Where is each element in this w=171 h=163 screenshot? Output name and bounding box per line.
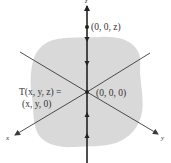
projection-diagram: z (0, 0, z) (0, 0, 0) T(x, y, z) = (x, y… (0, 0, 171, 163)
x-axis-label: x (5, 134, 10, 142)
origin-point (85, 90, 89, 94)
z-axis-label: z (84, 0, 88, 4)
origin-label: (0, 0, 0) (96, 88, 126, 99)
point-0-0-z (85, 25, 89, 29)
transform-line-1: T(x, y, z) = (19, 87, 61, 98)
y-axis-label: y (160, 134, 165, 142)
transform-line-2: (x, y, 0) (22, 99, 51, 110)
top-point-label: (0, 0, z) (91, 22, 121, 33)
